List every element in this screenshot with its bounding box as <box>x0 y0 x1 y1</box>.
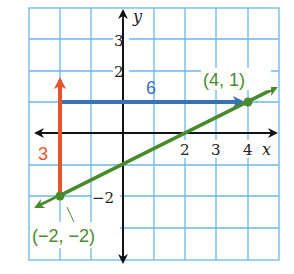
x-tick-3: 3 <box>211 141 221 159</box>
x-axis-label: x <box>262 140 271 159</box>
x-tick-2: 2 <box>180 141 190 159</box>
y-tick-2: 2 <box>114 63 124 81</box>
point-label-neg2-neg2: (−2, −2) <box>32 226 95 246</box>
x-tick-4: 4 <box>243 141 253 159</box>
y-tick-neg2: −2 <box>92 189 114 207</box>
point-label-4-1: (4, 1) <box>203 70 245 90</box>
y-axis-label: y <box>132 7 143 26</box>
coordinate-plane: 3 2 −2 2 3 4 x y 6 3 (4, 1) (−2, −2) <box>0 0 294 274</box>
rise-label: 3 <box>38 144 48 164</box>
y-tick-3: 3 <box>114 32 124 50</box>
run-label: 6 <box>146 78 156 98</box>
point-neg2-neg2 <box>56 192 65 201</box>
point-4-1 <box>244 98 253 107</box>
